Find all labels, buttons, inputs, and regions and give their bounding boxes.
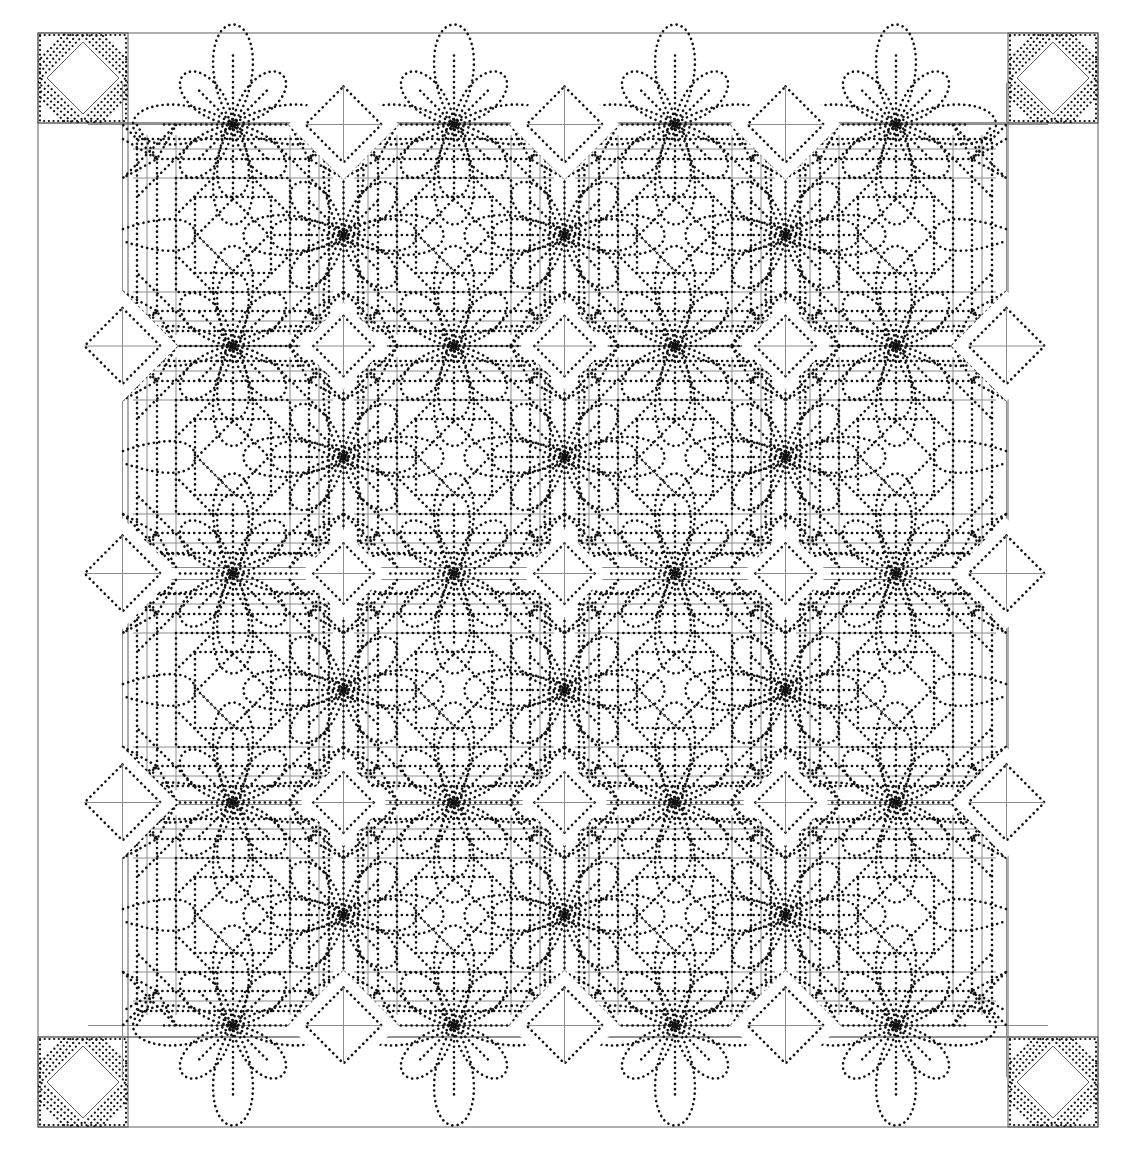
flower-center — [561, 454, 567, 460]
flower-center — [230, 343, 236, 349]
ring-square-2 — [839, 633, 953, 747]
blade-diagonal — [618, 255, 655, 292]
flower-vein — [640, 311, 675, 346]
flower-vein — [309, 235, 344, 270]
flower-vein — [896, 1026, 931, 1061]
flower-center — [672, 343, 678, 349]
center-diamond — [860, 654, 932, 726]
blade-diagonal — [176, 710, 213, 747]
block-r1-c2 — [344, 125, 564, 345]
ring-square-1 — [416, 419, 492, 495]
corner-echo-stitch — [1011, 1040, 1096, 1125]
flower-vein — [751, 422, 786, 457]
flower-vein — [309, 422, 344, 457]
ring-square-1 — [858, 197, 934, 273]
blade-diagonal — [397, 477, 434, 514]
ring-square-1 — [637, 877, 713, 953]
quilt-drawing — [0, 0, 1127, 1159]
ring-square-1 — [637, 419, 713, 495]
corner-echo-stitch — [28, 23, 139, 134]
flower-vein — [530, 422, 565, 457]
flower-vein — [198, 1026, 233, 1061]
ring-square-2 — [397, 633, 511, 747]
blade-diagonal — [618, 710, 655, 747]
flower-center — [230, 1022, 236, 1028]
edge-diamond-right — [951, 518, 1061, 628]
flower-vein — [198, 346, 233, 381]
flower-vein — [530, 915, 565, 950]
flower-vein — [786, 915, 821, 950]
flower-vein — [675, 991, 710, 1026]
flower-vein — [675, 1026, 710, 1061]
ring-square-1 — [416, 877, 492, 953]
ring-square-2 — [397, 400, 511, 514]
flower-vein — [419, 574, 454, 609]
corner-echo-stitch — [1004, 1033, 1102, 1131]
ring-square-1 — [195, 652, 271, 728]
flower-vein — [344, 915, 379, 950]
center-diamond — [197, 421, 269, 493]
blade-triangle — [137, 991, 176, 1025]
flower-vein — [675, 574, 710, 609]
flower-vein — [751, 880, 786, 915]
ring-square-1 — [195, 419, 271, 495]
ring-square-1 — [637, 652, 713, 728]
flower-vein — [675, 90, 710, 125]
flower-vein — [640, 125, 675, 160]
flower-vein — [896, 90, 931, 125]
corner-edge-stitch — [1010, 35, 1096, 121]
flower-center — [451, 570, 457, 576]
flower-vein — [675, 311, 710, 346]
ring-square-2 — [618, 178, 732, 292]
flower-center — [451, 343, 457, 349]
flower-vein — [786, 200, 821, 235]
center-diamond — [639, 199, 711, 271]
edge-diamond-bottom — [509, 970, 619, 1080]
flower-vein — [198, 311, 233, 346]
flower-vein — [675, 539, 710, 574]
petal-loop — [934, 674, 1006, 706]
ring-square-2 — [839, 178, 953, 292]
flower-vein — [419, 311, 454, 346]
flower-vein — [530, 880, 565, 915]
edge-diamond-top — [730, 69, 840, 179]
flower-vein — [640, 539, 675, 574]
petal-loop — [934, 899, 1006, 931]
block-r3-c2 — [344, 580, 564, 800]
flower-vein — [344, 690, 379, 725]
ring-square-2 — [176, 858, 290, 972]
petal-loop — [123, 219, 195, 251]
center-diamond — [639, 421, 711, 493]
flower-vein — [233, 90, 268, 125]
flower-vein — [565, 915, 600, 950]
corner-echo-stitch — [34, 1033, 132, 1131]
diamond-offset-line — [864, 461, 900, 497]
center-diamond — [860, 421, 932, 493]
flower-vein — [565, 457, 600, 492]
blade-diagonal — [839, 477, 876, 514]
block-r3-c1 — [123, 580, 343, 800]
blade-diagonal — [839, 935, 876, 972]
flower-vein — [454, 539, 489, 574]
blade-diagonal — [839, 710, 876, 747]
petal-loop — [123, 899, 195, 931]
blade-diagonal — [618, 935, 655, 972]
petal-loop — [123, 441, 195, 473]
block-r3-c3 — [565, 580, 785, 800]
flower-vein — [233, 311, 268, 346]
blade-diagonal — [618, 477, 655, 514]
flower-vein — [896, 125, 931, 160]
flower-vein — [233, 1026, 268, 1061]
flower-vein — [786, 690, 821, 725]
ring-square-2 — [176, 633, 290, 747]
flower-vein — [309, 690, 344, 725]
flower-vein — [861, 346, 896, 381]
flower-vein — [786, 422, 821, 457]
flower-center — [893, 1022, 899, 1028]
flower-center — [893, 121, 899, 127]
corner-edge-stitch — [40, 35, 126, 121]
flower-vein — [896, 311, 931, 346]
flower-vein — [751, 655, 786, 690]
flower-center — [893, 343, 899, 349]
block-r4-c4 — [786, 805, 1006, 1025]
